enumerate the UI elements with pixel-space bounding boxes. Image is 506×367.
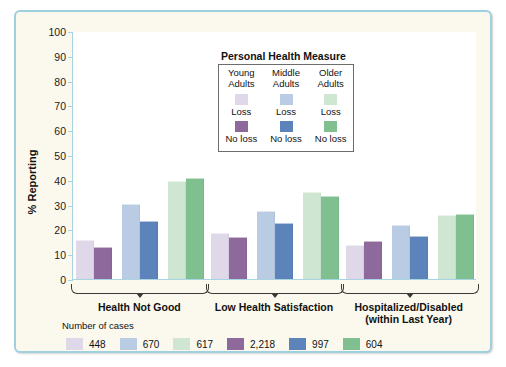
group-label: Hospitalized/Disabled(within Last Year): [341, 301, 476, 325]
legend-swatch-noloss: [280, 121, 293, 132]
cases-legend-item: 2,218: [227, 338, 275, 350]
cases-legend-value: 2,218: [250, 339, 275, 350]
legend-box: YoungAdultsLossNo lossMiddleAdultsLossNo…: [218, 64, 354, 152]
bar: [321, 196, 339, 279]
legend-label-noloss: No loss: [315, 133, 347, 144]
cases-legend-swatch: [227, 338, 244, 350]
bar: [392, 225, 410, 279]
legend-label-loss: Loss: [231, 106, 251, 117]
legend-column: YoungAdultsLossNo loss: [219, 65, 264, 151]
group-bracket: [71, 284, 209, 294]
group-bracket: [341, 284, 479, 294]
cases-legend-value: 997: [312, 339, 329, 350]
y-tick-label: 0: [60, 274, 66, 286]
bar: [168, 181, 186, 279]
bar: [410, 236, 428, 279]
cases-legend-item: 617: [173, 338, 213, 350]
bar: [456, 214, 474, 279]
y-tick-label: 90: [54, 51, 66, 63]
y-tick-label: 100: [48, 26, 66, 38]
group-bracket: [206, 284, 344, 294]
bar: [229, 237, 247, 279]
bar: [346, 245, 364, 279]
cases-legend-swatch: [343, 338, 360, 350]
legend-column: OlderAdultsLossNo loss: [308, 65, 353, 151]
cases-legend-value: 670: [143, 339, 160, 350]
bar: [257, 211, 275, 279]
bar: [76, 240, 94, 279]
cases-legend-swatch: [66, 338, 83, 350]
y-tick-label: 50: [54, 150, 66, 162]
legend-swatch-loss: [280, 94, 293, 105]
cases-legend-item: 997: [289, 338, 329, 350]
bar: [186, 178, 204, 279]
y-tick-label: 30: [54, 200, 66, 212]
legend-column-heading: MiddleAdults: [272, 68, 300, 90]
cases-legend-swatch: [120, 338, 137, 350]
bar: [94, 247, 112, 279]
y-tick-label: 10: [54, 249, 66, 261]
legend-swatch-loss: [324, 94, 337, 105]
cases-legend-title: Number of cases: [62, 320, 134, 331]
legend-swatch-loss: [235, 94, 248, 105]
bar-group: [342, 32, 477, 279]
legend-label-noloss: No loss: [225, 133, 257, 144]
legend-column: MiddleAdultsLossNo loss: [264, 65, 309, 151]
bar: [275, 223, 293, 279]
group-label: Low Health Satisfaction: [207, 301, 342, 313]
bar: [303, 192, 321, 279]
cases-legend-item: 448: [66, 338, 106, 350]
legend-column-heading: OlderAdults: [317, 68, 343, 90]
cases-legend-swatch: [289, 338, 306, 350]
cases-legend-value: 604: [366, 339, 383, 350]
legend-label-loss: Loss: [321, 106, 341, 117]
chart-frame: % Reporting 0102030405060708090100 Healt…: [14, 10, 492, 353]
cases-legend-item: 604: [343, 338, 383, 350]
legend-column-heading: YoungAdults: [228, 68, 255, 90]
cases-legend: 4486706172,218997604: [66, 338, 396, 350]
y-tick: [68, 280, 73, 281]
cases-legend-value: 448: [89, 339, 106, 350]
cases-legend-swatch: [173, 338, 190, 350]
bar: [140, 221, 158, 279]
legend-label-loss: Loss: [276, 106, 296, 117]
y-tick-label: 20: [54, 224, 66, 236]
legend-label-noloss: No loss: [270, 133, 302, 144]
legend-swatch-noloss: [324, 121, 337, 132]
y-tick-label: 60: [54, 125, 66, 137]
bar: [211, 233, 229, 279]
cases-legend-item: 670: [120, 338, 160, 350]
y-tick-label: 40: [54, 175, 66, 187]
chart-figure: % Reporting 0102030405060708090100 Healt…: [0, 0, 506, 367]
y-tick-label: 80: [54, 76, 66, 88]
bar: [122, 204, 140, 279]
legend-title: Personal Health Measure: [221, 50, 346, 62]
y-tick-label: 70: [54, 100, 66, 112]
group-label: Health Not Good: [72, 301, 207, 313]
legend-swatch-noloss: [235, 121, 248, 132]
y-axis-label: % Reporting: [26, 149, 38, 214]
bar: [364, 241, 382, 279]
bar: [438, 215, 456, 279]
bar-group: [73, 32, 208, 279]
cases-legend-value: 617: [196, 339, 213, 350]
